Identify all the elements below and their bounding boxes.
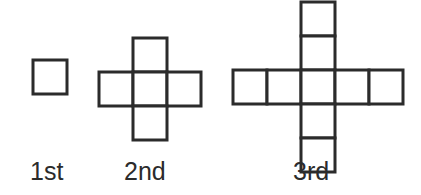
diagram-canvas: 1st 2nd 3rd — [0, 0, 421, 195]
figure-label-3rd: 3rd — [293, 159, 329, 184]
unit-square — [301, 70, 335, 104]
unit-square — [133, 72, 167, 106]
unit-square — [369, 70, 403, 104]
unit-square — [301, 104, 335, 138]
unit-square — [301, 2, 335, 36]
unit-square — [233, 70, 267, 104]
unit-square — [33, 60, 67, 94]
unit-square — [133, 38, 167, 72]
unit-square — [301, 36, 335, 70]
unit-square — [99, 72, 133, 106]
unit-square — [267, 70, 301, 104]
unit-square — [335, 70, 369, 104]
unit-square — [133, 106, 167, 140]
figure-2nd-shape — [96, 35, 204, 143]
figure-label-1st: 1st — [30, 159, 63, 184]
figure-3rd-shape — [230, 0, 406, 175]
figure-label-2nd: 2nd — [124, 159, 166, 184]
unit-square — [167, 72, 201, 106]
figure-1st-shape — [30, 57, 70, 97]
